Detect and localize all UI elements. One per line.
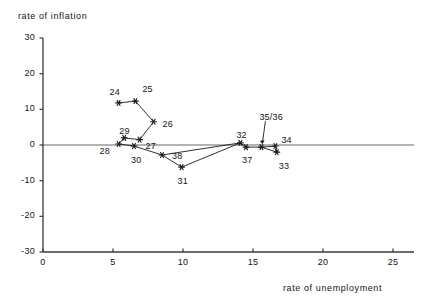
annotation-leader-line [262, 121, 265, 143]
data-point-marker [116, 100, 122, 105]
annotation-arrowhead [260, 140, 265, 144]
data-point-label: 38 [172, 151, 182, 161]
y-tick-label: 20 [9, 68, 35, 78]
data-point-label: 29 [119, 126, 129, 136]
data-point-label: 31 [178, 176, 188, 186]
data-point-label: 37 [242, 155, 252, 165]
data-point-marker [137, 137, 143, 142]
x-axis-title: rate of unemployment [283, 283, 382, 293]
data-line-segment [135, 101, 153, 122]
x-tick-label: 5 [101, 257, 125, 267]
data-line-group [119, 101, 277, 167]
y-tick-label: -20 [9, 210, 35, 220]
x-tick-label: 0 [31, 257, 55, 267]
data-point-label: 35/36 [259, 112, 283, 122]
y-tick-label: -10 [9, 175, 35, 185]
data-point-label: 30 [131, 155, 141, 165]
data-point-label: 33 [279, 161, 289, 171]
data-point-label: 25 [142, 84, 152, 94]
data-point-label: 28 [100, 146, 110, 156]
annotation-leader-group [260, 121, 265, 144]
chart-figure: rate of inflation 3020100-10-20-30 05101… [0, 0, 432, 306]
x-tick-label: 25 [381, 257, 405, 267]
data-line-segment [182, 143, 241, 167]
data-point-label: 34 [281, 135, 291, 145]
x-tick-label: 15 [241, 257, 265, 267]
x-tick-label: 10 [171, 257, 195, 267]
data-point-label: 26 [163, 119, 173, 129]
y-tick-label: 10 [9, 103, 35, 113]
x-tick-label: 20 [311, 257, 335, 267]
data-point-label: 32 [236, 130, 246, 140]
y-tick-label: 0 [9, 139, 35, 149]
plot-area [0, 0, 432, 306]
data-point-label: 24 [110, 87, 120, 97]
data-line-segment [140, 122, 154, 140]
data-point-label: 27 [146, 141, 156, 151]
y-tick-label: 30 [9, 32, 35, 42]
y-tick-label: -30 [9, 246, 35, 256]
